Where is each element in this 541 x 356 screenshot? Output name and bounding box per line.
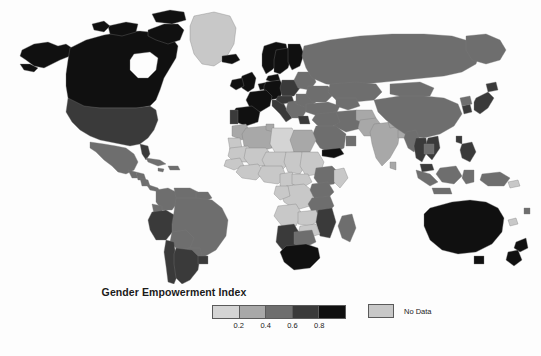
country-portugal [230,110,238,124]
colorbar [212,305,346,319]
no-data-label: No Data [404,307,432,316]
colorbar-tick-3: 0.8 [314,321,324,330]
colorbar-tick-2: 0.6 [287,321,297,330]
world-map [0,2,541,284]
country-australia-tasmania [474,256,484,264]
country-japan-hokkaido [486,82,498,92]
no-data-swatch [368,304,394,318]
colorbar-segment-3 [266,306,293,318]
country-hispaniola [168,166,180,170]
colorbar-tick-0: 0.2 [234,321,244,330]
colorbar-segment-2 [240,306,267,318]
country-north-korea [460,96,472,106]
legend-title: Gender Empowerment Index [0,286,348,298]
world-map-panel [0,2,541,284]
legend: Gender Empowerment Index 0.2 0.4 0.6 0.8… [0,286,541,346]
colorbar-segment-1 [213,306,240,318]
country-uruguay [198,256,208,264]
choropleth-figure: Gender Empowerment Index 0.2 0.4 0.6 0.8… [0,0,541,356]
country-indonesia-java [432,188,452,194]
country-greece [298,116,310,124]
colorbar-segment-4 [293,306,320,318]
colorbar-segment-5 [319,306,345,318]
country-cambodia-laos [424,144,434,154]
colorbar-tick-labels: 0.2 0.4 0.6 0.8 [212,321,346,333]
country-fiji [524,208,530,214]
no-data-legend-entry: No Data [368,304,432,318]
colorbar-tick-1: 0.4 [260,321,270,330]
country-oman [346,136,356,146]
